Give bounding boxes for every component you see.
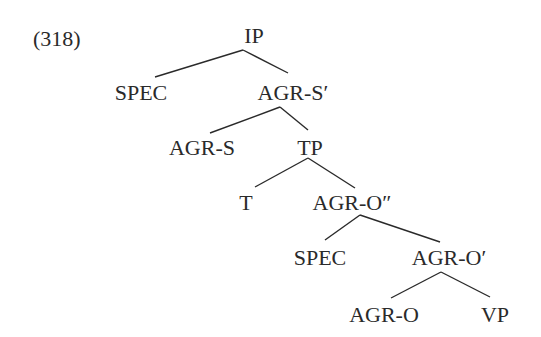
tree-edge-agr-o-bar-to-vp bbox=[441, 272, 490, 297]
tree-edge-ip-to-agr-s-bar bbox=[243, 50, 288, 73]
tree-edge-agr-s-bar-to-tp bbox=[280, 107, 308, 130]
tree-edge-tp-to-t bbox=[255, 158, 308, 187]
tree-node-t: T bbox=[239, 190, 253, 215]
tree-edge-agr-s-bar-to-agr-s bbox=[210, 107, 280, 133]
tree-node-agr-o: AGR-O bbox=[349, 302, 419, 327]
tree-edge-ip-to-spec1 bbox=[155, 50, 243, 77]
tree-node-tp: TP bbox=[297, 135, 323, 160]
tree-node-agr-o-bar: AGR-O′ bbox=[412, 245, 486, 270]
tree-nodes: IPSPECAGR-S′AGR-STPTAGR-O″SPECAGR-O′AGR-… bbox=[115, 23, 509, 327]
syntax-tree-diagram: (318) IPSPECAGR-S′AGR-STPTAGR-O″SPECAGR-… bbox=[0, 0, 541, 337]
tree-node-agr-o-dbar: AGR-O″ bbox=[313, 190, 392, 215]
tree-edge-agr-o-bar-to-agr-o bbox=[391, 272, 441, 298]
tree-node-agr-s-bar: AGR-S′ bbox=[258, 80, 329, 105]
tree-edge-agr-o-dbar-to-agr-o-bar bbox=[360, 215, 440, 242]
tree-edge-tp-to-agr-o-dbar bbox=[308, 158, 355, 188]
tree-edge-agr-o-dbar-to-spec2 bbox=[325, 215, 360, 240]
tree-node-vp: VP bbox=[481, 302, 509, 327]
tree-node-spec1: SPEC bbox=[115, 80, 168, 105]
tree-node-agr-s: AGR-S bbox=[169, 135, 235, 160]
tree-node-ip: IP bbox=[244, 23, 264, 48]
tree-node-spec2: SPEC bbox=[294, 245, 347, 270]
example-number: (318) bbox=[33, 26, 81, 51]
